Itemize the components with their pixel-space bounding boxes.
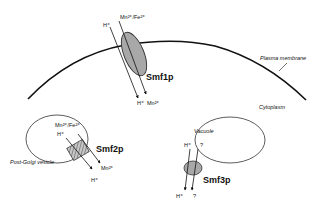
smf1p-out-mn-label: Mn²⁺ xyxy=(147,100,159,106)
smf2p-label: Smf2p xyxy=(96,144,124,154)
smf2p-in-mn-fe-label: Mn²⁺/Fe²⁺ xyxy=(55,122,80,128)
smf2p-in-h-label: H⁺ xyxy=(57,131,64,137)
smf2p-transporter xyxy=(66,134,100,169)
smf2p-out-h-label: H⁺ xyxy=(91,177,98,183)
plasma-membrane-pointer xyxy=(279,63,287,71)
vacuole-label: Vacuole xyxy=(194,128,214,134)
smf2p-out-mn-label: Mn²⁺ xyxy=(101,165,113,171)
smf1p-transporter xyxy=(110,21,152,98)
vacuole xyxy=(195,117,265,163)
transporter-diagram: H⁺ Mn²⁺/Fe²⁺ Smf1p H⁺ Mn²⁺ Plasma membra… xyxy=(0,0,326,212)
smf1p-in-mn-fe-label: Mn²⁺/Fe²⁺ xyxy=(120,14,145,20)
smf1p-in-h-label: H⁺ xyxy=(103,22,110,28)
smf3p-in-question-label: ? xyxy=(200,142,203,148)
smf1p-out-h-label: H⁺ xyxy=(137,100,144,106)
plasma-membrane-label: Plasma membrane xyxy=(260,55,306,61)
smf3p-out-question-label: ? xyxy=(193,193,196,199)
smf3p-in-h-label: H⁺ xyxy=(184,142,191,148)
smf3p-transporter xyxy=(184,149,202,190)
smf1p-label: Smf1p xyxy=(146,72,174,82)
cytoplasm-label: Cytoplasm xyxy=(259,104,285,110)
smf3p-out-h-label: H⁺ xyxy=(176,193,183,199)
post-golgi-vesicle-label: Post-Golgi vesicle xyxy=(10,159,54,165)
smf3p-label: Smf3p xyxy=(203,175,231,185)
plasma-membrane-arc xyxy=(28,41,306,100)
